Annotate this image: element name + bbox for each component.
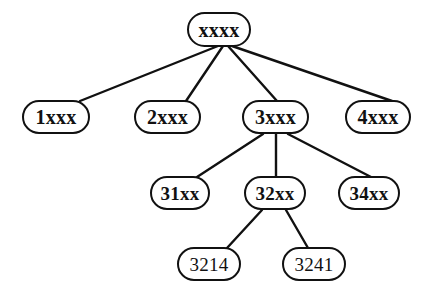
tree-node-n3214[interactable]: 3214 <box>177 247 241 281</box>
tree-node-label: 4xxx <box>358 107 399 127</box>
tree-node-label: 34xx <box>350 183 389 202</box>
tree-node-label: 3214 <box>190 254 229 273</box>
tree-node-label: 1xxx <box>36 107 77 127</box>
tree-node-n3[interactable]: 3xxx <box>242 100 309 134</box>
tree-diagram-canvas: xxxx1xxx2xxx3xxx4xxx31xx32xx34xx32143241 <box>0 0 430 297</box>
tree-node-n4[interactable]: 4xxx <box>345 100 411 134</box>
tree-edge-root-to-n2 <box>186 46 223 101</box>
tree-edge-root-to-n4 <box>232 46 392 101</box>
tree-node-n34[interactable]: 34xx <box>338 176 400 210</box>
tree-edge-n3-to-n31 <box>197 134 263 177</box>
tree-edge-n32-to-n3214 <box>227 210 262 248</box>
tree-node-n1[interactable]: 1xxx <box>22 100 90 134</box>
tree-node-label: 2xxx <box>147 107 188 127</box>
tree-node-label: 3xxx <box>255 107 296 127</box>
tree-node-label: 3241 <box>295 254 334 273</box>
tree-node-n3241[interactable]: 3241 <box>282 247 346 281</box>
tree-node-label: xxxx <box>199 19 240 39</box>
tree-edge-n3-to-n34 <box>288 134 371 177</box>
tree-node-label: 32xx <box>256 183 295 202</box>
tree-edge-root-to-n1 <box>80 46 218 101</box>
tree-node-root[interactable]: xxxx <box>187 12 251 47</box>
tree-node-n32[interactable]: 32xx <box>244 176 306 210</box>
tree-node-n31[interactable]: 31xx <box>150 176 210 210</box>
tree-edge-n32-to-n3241 <box>286 210 308 248</box>
tree-node-label: 31xx <box>161 183 200 202</box>
tree-node-n2[interactable]: 2xxx <box>134 100 201 134</box>
